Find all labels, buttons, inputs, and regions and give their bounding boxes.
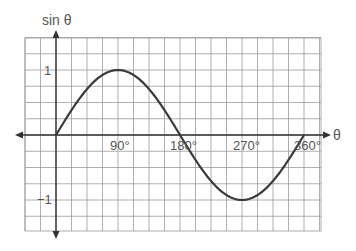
y-axis-up-arrow-icon (53, 30, 60, 38)
x-tick-180: 180° (170, 139, 197, 152)
y-axis-down-arrow-icon (53, 231, 60, 239)
x-axis-right-arrow-icon (323, 132, 331, 139)
x-tick-270: 270° (233, 139, 260, 152)
x-tick-90: 90° (110, 139, 130, 152)
grid-lines (25, 38, 321, 232)
x-axis-label: θ (333, 128, 341, 142)
x-axis-left-arrow-icon (15, 132, 23, 139)
x-tick-360: 360° (294, 139, 321, 152)
sine-chart (0, 0, 356, 251)
y-tick-neg1: −1 (37, 193, 52, 206)
y-tick-1: 1 (44, 64, 51, 77)
axes (15, 30, 331, 239)
y-axis-label: sin θ (42, 13, 72, 27)
